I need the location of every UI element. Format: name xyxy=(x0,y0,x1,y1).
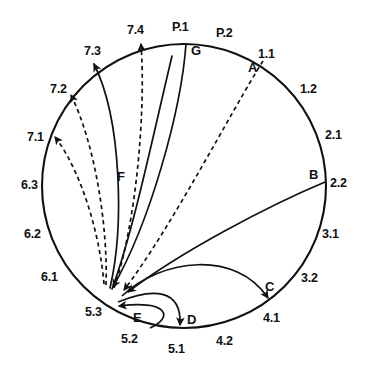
connection-D-path xyxy=(118,293,180,325)
boundary-label-4-1: 4.1 xyxy=(263,312,280,325)
boundary-label-1-1: 1.1 xyxy=(258,48,275,61)
boundary-label-7-4: 7.4 xyxy=(127,24,144,37)
boundary-label-7-2: 7.2 xyxy=(50,83,67,96)
boundary-label-7-3: 7.3 xyxy=(84,45,101,58)
connection-d2-path xyxy=(71,95,106,285)
boundary-label-6-3: 6.3 xyxy=(21,179,38,192)
boundary-label-P2: P.2 xyxy=(216,27,233,40)
boundary-label-5-3: 5.3 xyxy=(85,306,102,319)
boundary-label-6-2: 6.2 xyxy=(24,228,41,241)
boundary-label-7-1: 7.1 xyxy=(27,131,44,144)
connection-label-F: F xyxy=(117,170,125,183)
boundary-label-5-2: 5.2 xyxy=(121,333,138,346)
boundary-label-3-2: 3.2 xyxy=(301,272,318,285)
outer-circle xyxy=(42,44,326,328)
connection-label-C: C xyxy=(265,280,274,293)
circular-flow-figure xyxy=(0,0,368,365)
boundary-label-5-1: 5.1 xyxy=(168,343,185,356)
boundary-label-3-1: 3.1 xyxy=(322,228,339,241)
boundary-label-4-2: 4.2 xyxy=(216,335,233,348)
boundary-label-2-1: 2.1 xyxy=(325,129,342,142)
connection-label-D: D xyxy=(187,313,196,326)
diagram-canvas: P.1 P.2 1.1 1.2 2.1 2.2 3.1 3.2 4.1 4.2 … xyxy=(0,0,368,365)
boundary-label-1-2: 1.2 xyxy=(300,83,317,96)
boundary-label-2-2: 2.2 xyxy=(330,177,347,190)
connection-d1-path xyxy=(55,137,104,284)
boundary-label-6-1: 6.1 xyxy=(41,271,58,284)
connection-d3-path xyxy=(114,44,142,288)
connection-label-B: B xyxy=(309,168,318,181)
connection-label-A: A xyxy=(248,61,257,74)
boundary-label-P1: P.1 xyxy=(172,21,189,34)
connection-label-E: E xyxy=(133,311,141,324)
connection-label-G: G xyxy=(191,44,201,57)
